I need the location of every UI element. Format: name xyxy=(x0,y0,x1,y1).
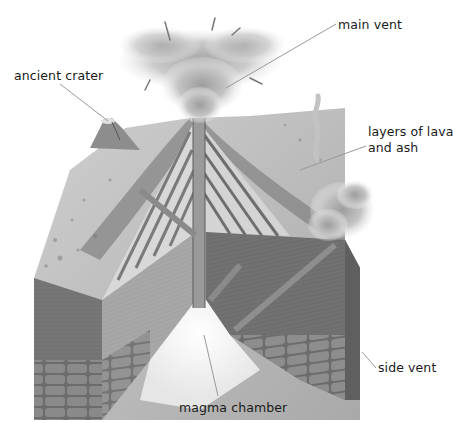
label-ancient-crater: ancient crater xyxy=(14,68,103,83)
label-layers-line1: layers of lava xyxy=(368,124,453,139)
eruption-cloud xyxy=(120,18,285,123)
label-magma-chamber: magma chamber xyxy=(179,400,287,415)
fumarole-smoke xyxy=(315,96,318,160)
main-vent-pipe xyxy=(193,118,205,308)
left-block-front xyxy=(34,278,102,420)
label-main-vent: main vent xyxy=(338,17,402,32)
label-layers-line2: and ash xyxy=(368,140,418,155)
label-side-vent: side vent xyxy=(378,360,436,375)
